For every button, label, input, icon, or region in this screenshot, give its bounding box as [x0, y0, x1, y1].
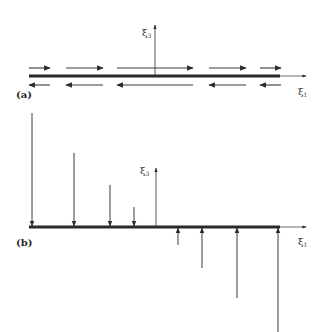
panel-b-label: (b): [16, 237, 32, 248]
xi3-label-b: ξ3: [140, 165, 150, 177]
panel-a-label: (a): [16, 89, 32, 100]
xi1-label-b: ξ1: [298, 236, 307, 248]
figure-canvas: ξ3 ξ1 (a) ξ3 ξ1 (b): [0, 0, 323, 332]
panel-b: ξ3 ξ1 (b): [16, 113, 307, 332]
xi1-label-a: ξ1: [298, 86, 307, 98]
xi3-label-a: ξ3: [142, 27, 152, 39]
downward-load-arrows: [32, 113, 134, 226]
upward-load-arrows: [178, 228, 278, 332]
panel-a: ξ3 ξ1 (a): [16, 25, 307, 100]
